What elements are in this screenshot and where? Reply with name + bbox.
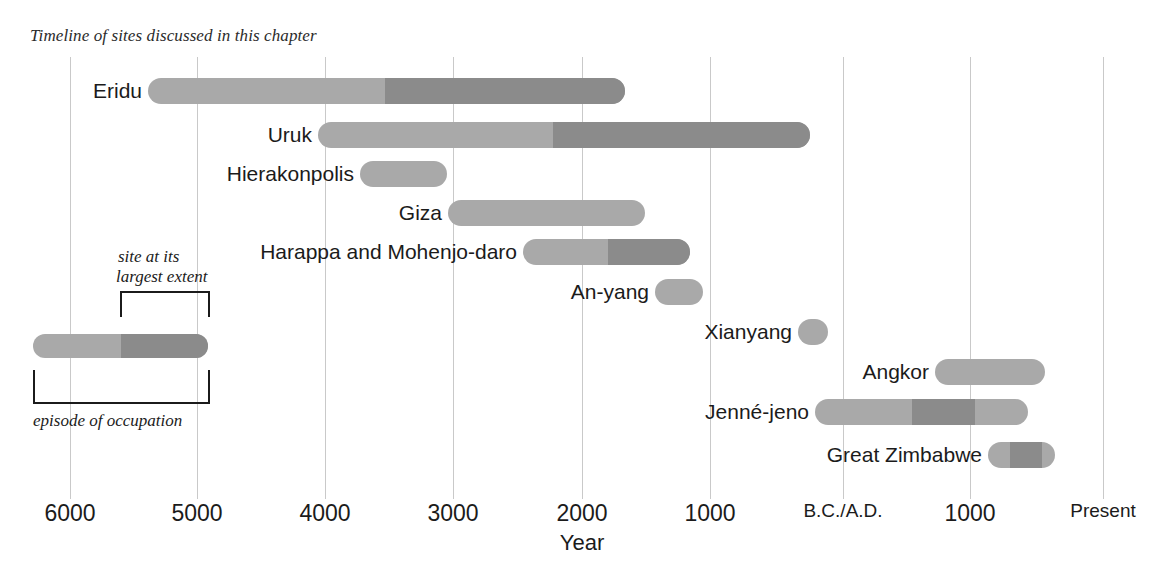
axis-tick-7 <box>970 477 971 499</box>
axis-title: Year <box>560 530 604 556</box>
axis-tick-label-0: 6000 <box>44 500 95 527</box>
timeline-bar[interactable] <box>815 399 1028 425</box>
timeline-bar-label: Uruk <box>0 123 312 147</box>
timeline-bar-largest-extent-segment <box>912 399 975 425</box>
timeline-bar-label: Great Zimbabwe <box>0 443 982 467</box>
axis-tick-3 <box>453 477 454 499</box>
axis-tick-label-7: 1000 <box>944 500 995 527</box>
timeline-bar-label: Giza <box>0 201 442 225</box>
legend-sample-bar-dark-segment <box>121 334 208 358</box>
timeline-bar-largest-extent-segment <box>1010 442 1042 468</box>
axis-tick-2 <box>325 477 326 499</box>
timeline-bar-label: An-yang <box>0 280 649 304</box>
axis-tick-label-5: 1000 <box>684 500 735 527</box>
timeline-bar-label: Hierakonpolis <box>0 162 354 186</box>
timeline-bar[interactable] <box>655 279 703 305</box>
axis-tick-label-8: Present <box>1070 500 1135 522</box>
legend-largest-extent-label-line2: largest extent <box>116 267 207 287</box>
timeline-bar[interactable] <box>448 200 645 226</box>
timeline-bar-largest-extent-segment <box>385 78 625 104</box>
timeline-bar[interactable] <box>148 78 625 104</box>
timeline-bar[interactable] <box>988 442 1055 468</box>
legend-bracket-occupation <box>33 370 210 404</box>
timeline-bar[interactable] <box>935 359 1045 385</box>
legend-largest-extent-label-line1: site at its <box>118 247 179 267</box>
axis-tick-label-6: B.C./A.D. <box>803 500 882 522</box>
axis-tick-label-4: 2000 <box>556 500 607 527</box>
axis-tick-1 <box>197 477 198 499</box>
axis-tick-label-3: 3000 <box>427 500 478 527</box>
timeline-bar[interactable] <box>318 122 810 148</box>
timeline-bar[interactable] <box>798 319 828 345</box>
axis-tick-0 <box>70 477 71 499</box>
timeline-bar-largest-extent-segment <box>608 239 690 265</box>
legend-bracket-largest-extent <box>120 291 210 317</box>
timeline-bar-label: Eridu <box>0 79 142 103</box>
timeline-figure: Timeline of sites discussed in this chap… <box>0 0 1165 583</box>
legend-occupation-label: episode of occupation <box>33 411 182 431</box>
axis-tick-5 <box>710 477 711 499</box>
axis-tick-6 <box>843 477 844 499</box>
axis-tick-label-2: 4000 <box>299 500 350 527</box>
axis-tick-4 <box>582 477 583 499</box>
gridline-Present <box>1103 57 1104 477</box>
timeline-bar-label: Harappa and Mohenjo-daro <box>0 240 517 264</box>
axis-tick-label-1: 5000 <box>171 500 222 527</box>
legend-sample-bar <box>33 334 208 358</box>
timeline-bar[interactable] <box>523 239 690 265</box>
axis-tick-8 <box>1103 477 1104 499</box>
timeline-bar[interactable] <box>360 161 447 187</box>
timeline-bar-largest-extent-segment <box>553 122 810 148</box>
